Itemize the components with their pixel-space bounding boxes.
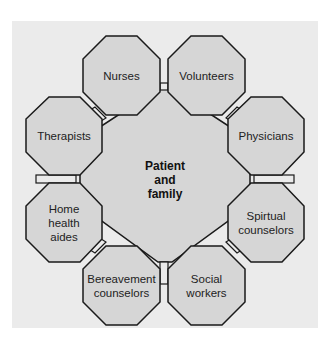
node-label: Nurses bbox=[103, 69, 139, 83]
node-label: Physicians bbox=[239, 129, 294, 143]
connector bbox=[36, 175, 76, 183]
node-label: Volunteers bbox=[179, 69, 233, 83]
connector bbox=[254, 175, 294, 183]
node-label-line: Spirtual bbox=[247, 209, 286, 223]
center-label-line: Patient bbox=[145, 159, 185, 173]
node-label-line: workers bbox=[186, 286, 226, 300]
node-label-line: Social bbox=[191, 272, 222, 286]
center-label-line: family bbox=[148, 187, 183, 201]
node-bereavement-counselors: Bereavement counselors bbox=[83, 246, 160, 325]
node-label-line: counselors bbox=[238, 223, 294, 237]
node-label: Therapists bbox=[37, 129, 91, 143]
connector bbox=[160, 262, 168, 284]
node-physicians: Physicians bbox=[228, 97, 304, 175]
connector bbox=[160, 83, 168, 90]
node-social-workers: Social workers bbox=[168, 246, 245, 325]
node-label-line: health bbox=[48, 216, 79, 230]
node-therapists: Therapists bbox=[26, 97, 102, 175]
node-label-line: Bereavement bbox=[87, 272, 155, 286]
node-label-line: counselors bbox=[94, 286, 150, 300]
center-label: Patient and family bbox=[115, 155, 215, 205]
node-label-line: aides bbox=[50, 230, 78, 244]
node-label-line: Home bbox=[49, 202, 80, 216]
center-label-line: and bbox=[154, 173, 175, 187]
